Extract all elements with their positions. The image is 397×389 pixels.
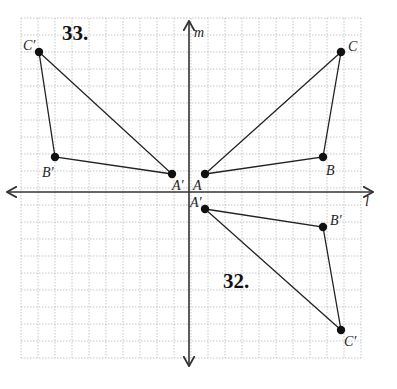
vertex-label: A′ bbox=[171, 178, 185, 193]
vertex-label: A bbox=[192, 178, 202, 193]
vertex-point bbox=[201, 205, 209, 213]
vertex-point bbox=[319, 153, 327, 161]
vertex-point bbox=[35, 48, 43, 56]
point-labels: ABCA′B′C′A′B′C′ bbox=[23, 38, 358, 349]
axis-label-l: l bbox=[365, 194, 369, 209]
vertex-label: C bbox=[348, 39, 358, 54]
problem-numbers: 33.32. bbox=[62, 21, 249, 293]
vertex-point bbox=[337, 48, 345, 56]
problem-number: 33. bbox=[62, 21, 88, 45]
vertex-point bbox=[319, 223, 327, 231]
axis-label-m: m bbox=[194, 25, 204, 40]
problem-number: 32. bbox=[223, 269, 249, 293]
vertex-label: B bbox=[326, 163, 335, 178]
vertex-label: C′ bbox=[344, 334, 357, 349]
vertex-label: A′ bbox=[189, 195, 203, 210]
diagram-canvas: lm ABCA′B′C′A′B′C′ 33.32. bbox=[0, 0, 397, 389]
vertex-point bbox=[168, 170, 176, 178]
triangles bbox=[35, 48, 345, 334]
vertex-point bbox=[201, 170, 209, 178]
vertex-point bbox=[51, 153, 59, 161]
vertex-label: B′ bbox=[330, 213, 343, 228]
vertex-label: C′ bbox=[23, 38, 36, 53]
grid bbox=[21, 18, 361, 358]
vertex-point bbox=[337, 326, 345, 334]
vertex-label: B′ bbox=[42, 165, 55, 180]
